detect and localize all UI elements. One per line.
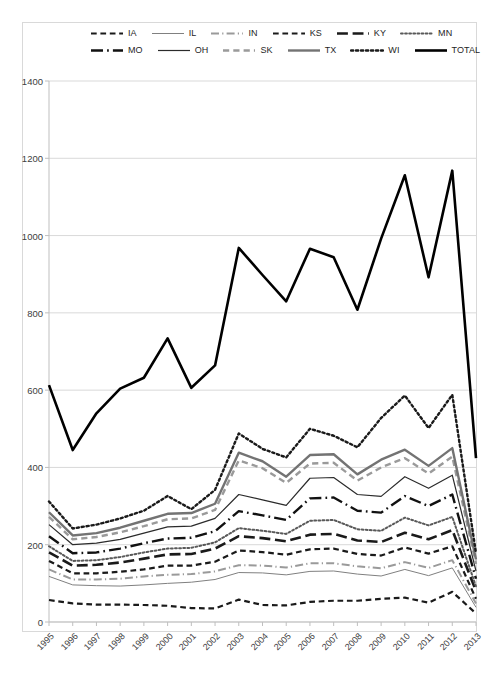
series-line-ia xyxy=(49,592,476,614)
series-line-total xyxy=(49,171,476,459)
plot-area xyxy=(0,0,498,674)
line-chart: IAILINKSKYMN MOOHSKTXWITOTAL 14001200100… xyxy=(0,0,498,674)
series-line-oh xyxy=(49,475,476,571)
series-line-sk xyxy=(49,457,476,564)
series-line-tx xyxy=(49,448,476,559)
series-line-mo xyxy=(49,494,476,578)
series-line-il xyxy=(49,568,476,607)
series-line-in xyxy=(49,560,476,603)
series-line-ky xyxy=(49,530,476,591)
